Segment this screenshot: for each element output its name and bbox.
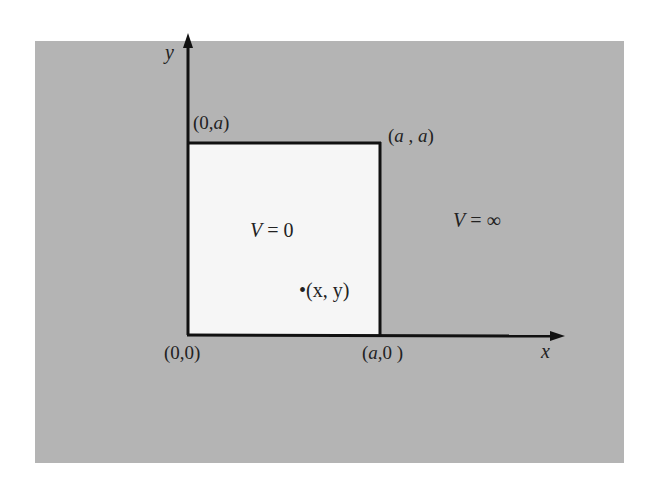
point-label: •(x, y) [299,280,349,300]
outside-potential-label: V = ∞ [453,210,501,230]
corner-label-top-right: (a , a) [388,126,434,145]
y-axis-label: y [165,42,174,62]
point-bullet-icon: • [299,279,306,301]
x-axis-arrow-icon [550,331,565,341]
corner-label-origin: (0,0) [164,343,200,362]
x-axis-line [187,335,552,336]
corner-label-bottom-right: (a,0 ) [362,343,403,362]
x-axis-label: x [541,341,550,361]
inside-potential-label: V = 0 [250,220,294,240]
corner-label-top-left: (0,a) [193,113,229,132]
y-axis-arrow-icon [183,33,193,48]
square-well-diagram [0,0,653,480]
